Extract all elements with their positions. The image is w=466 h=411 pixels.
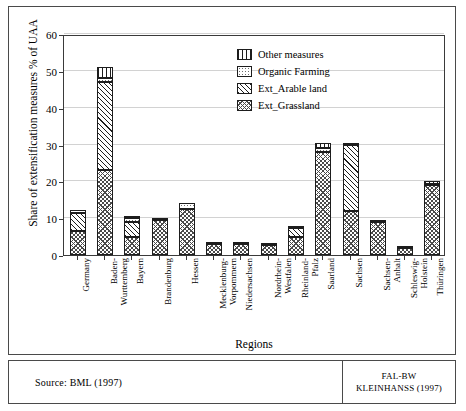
x-tick-label: Brandenburg <box>163 258 173 332</box>
bar-segment-Other measures <box>315 143 331 149</box>
x-tick-label-line1: Thüringen <box>435 258 445 296</box>
credit-cell: FAL-BW KLEINHANSS (1997) <box>343 361 455 403</box>
bar-segment-Organic Farming <box>370 220 386 222</box>
x-tick-mark <box>131 256 132 260</box>
legend-item-3: Ext_Grassland <box>237 98 377 113</box>
y-tick-label: 50 <box>31 66 57 78</box>
x-tick-label-line2: Vorpommern <box>228 258 238 332</box>
x-tick-label-line1: Germany <box>81 258 91 292</box>
bar-Baden-Wuerttemberg <box>97 34 113 255</box>
bar-segment-Organic Farming <box>124 218 140 222</box>
y-tick-label: 10 <box>31 213 57 225</box>
bar-segment-Ext_Arable land <box>70 213 86 231</box>
legend-swatch-icon <box>237 83 252 94</box>
x-tick-label: Rheinland-Pfalz <box>300 258 320 332</box>
bar-segment-Ext_Grassland <box>261 245 277 255</box>
x-tick-label-line2: Anhalt <box>392 258 402 332</box>
legend-swatch-icon <box>237 49 252 60</box>
x-tick-label: Baden-Wurttemberg <box>109 258 129 332</box>
x-tick-mark <box>404 256 405 260</box>
y-tick-label: 30 <box>31 140 57 152</box>
x-tick-label-line1: Niedersachsen <box>244 258 254 310</box>
bar-Mecklenburg-Vorpommern <box>206 34 222 255</box>
y-tick-label: 40 <box>31 103 57 115</box>
x-tick-label: Nordrhein-Westfalen <box>273 258 293 332</box>
bar-segment-Ext_Grassland <box>288 237 304 255</box>
x-tick-label-line2: Pfalz <box>310 258 320 332</box>
x-axis-title: Regions <box>63 338 445 350</box>
legend-swatch-icon <box>237 100 252 111</box>
x-tick-label: Niedersachsen <box>244 258 254 332</box>
x-tick-label-line1: Mecklenburg- <box>218 258 228 309</box>
bar-segment-Other measures <box>124 216 140 218</box>
x-tick-mark <box>77 256 78 260</box>
bar-segment-Ext_Arable land <box>343 145 359 211</box>
bar-segment-Ext_Arable land <box>124 222 140 237</box>
bar-segment-Other measures <box>424 181 440 184</box>
x-tick-label: Sachsen <box>354 258 364 332</box>
x-tick-label: Germany <box>81 258 91 332</box>
x-tick-mark <box>431 256 432 260</box>
source-text: Source: BML (1997) <box>35 377 122 388</box>
bar-segment-Ext_Grassland <box>179 209 195 255</box>
x-tick-mark <box>159 256 160 260</box>
x-tick-label-line1: Baden- <box>109 258 119 284</box>
x-tick-label: Thüringen <box>435 258 445 332</box>
x-tick-label-line1: Sachsen <box>354 258 364 288</box>
credit-line-2: KLEINHANSS (1997) <box>356 382 442 394</box>
bar-segment-Organic Farming <box>261 243 277 245</box>
x-tick-label: Saarland <box>326 258 336 332</box>
legend-item-1: Organic Farming <box>237 64 377 79</box>
x-tick-label-line1: Schleswig- <box>409 258 419 298</box>
bar-segment-Organic Farming <box>206 242 222 244</box>
x-tick-label-line1: Saarland <box>326 258 336 290</box>
x-tick-mark <box>295 256 296 260</box>
x-tick-label: Hessen <box>190 258 200 332</box>
y-tick-label: 0 <box>31 250 57 262</box>
bar-segment-Ext_Arable land <box>97 82 113 170</box>
x-tick-mark <box>350 256 351 260</box>
x-tick-mark <box>377 256 378 260</box>
bar-segment-Organic Farming <box>152 218 168 220</box>
x-tick-label-line1: Nordrhein- <box>273 258 283 298</box>
bar-segment-Ext_Grassland <box>206 244 222 255</box>
y-tick-label: 60 <box>31 29 57 41</box>
figure-root: Share of extensification measures % of U… <box>0 0 466 411</box>
bar-segment-Organic Farming <box>233 242 249 244</box>
x-tick-label-line1: Rheinland- <box>300 258 310 298</box>
bar-Brandenburg <box>152 34 168 255</box>
x-tick-mark <box>213 256 214 260</box>
x-tick-mark <box>240 256 241 260</box>
x-tick-mark <box>322 256 323 260</box>
bar-segment-Ext_Grassland <box>233 244 249 255</box>
legend-item-0: Other measures <box>237 47 377 62</box>
credit-line-1: FAL-BW <box>381 370 416 382</box>
bar-segment-Ext_Grassland <box>343 211 359 255</box>
bar-Hessen <box>179 34 195 255</box>
bar-segment-Ext_Grassland <box>424 185 440 255</box>
bar-segment-Ext_Grassland <box>315 152 331 255</box>
bar-segment-Ext_Grassland <box>97 170 113 255</box>
legend-label: Organic Farming <box>258 66 330 77</box>
bar-Bayern <box>124 34 140 255</box>
x-tick-label: Mecklenburg-Vorpommern <box>218 258 238 332</box>
bar-Thueringen <box>424 34 440 255</box>
bar-segment-Ext_Grassland <box>370 222 386 255</box>
x-tick-label: Bayern <box>135 258 145 332</box>
x-tick-label-line2: Holstein <box>419 258 429 332</box>
legend-label: Ext_Arable land <box>258 83 327 94</box>
bar-segment-Organic Farming <box>343 143 359 145</box>
chart-frame: Share of extensification measures % of U… <box>8 6 456 355</box>
y-tick-label: 20 <box>31 176 57 188</box>
bar-segment-Organic Farming <box>315 148 331 152</box>
y-tick-mark <box>59 256 63 257</box>
bar-segment-Organic Farming <box>288 226 304 228</box>
legend-swatch-icon <box>237 66 252 77</box>
x-tick-label-line1: Brandenburg <box>163 258 173 305</box>
bar-segment-Ext_Arable land <box>288 228 304 236</box>
x-tick-label: Schleswig-Holstein <box>409 258 429 332</box>
x-tick-label-line1: Bayern <box>135 258 145 284</box>
x-tick-mark <box>104 256 105 260</box>
x-tick-label-line1: Sachsen- <box>382 258 392 291</box>
x-tick-mark <box>186 256 187 260</box>
